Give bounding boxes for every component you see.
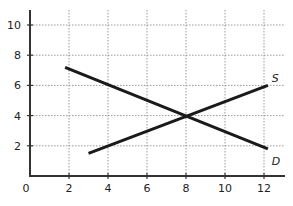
x-tick-label: 0 bbox=[23, 182, 30, 195]
x-tick-label: 8 bbox=[183, 182, 190, 195]
y-tick-label: 2 bbox=[14, 140, 21, 153]
curve-labels: SD bbox=[272, 72, 280, 168]
x-tick-label: 2 bbox=[66, 182, 73, 195]
x-tick-label: 10 bbox=[218, 182, 232, 195]
y-tick-label: 10 bbox=[7, 19, 21, 32]
series-lines bbox=[65, 67, 268, 153]
label-s: S bbox=[272, 72, 279, 85]
y-tick-label: 6 bbox=[14, 79, 21, 92]
y-tick-label: 8 bbox=[14, 49, 21, 62]
x-tick-label: 4 bbox=[105, 182, 112, 195]
line-d bbox=[65, 67, 268, 149]
y-tick-label: 4 bbox=[14, 110, 21, 123]
label-d: D bbox=[272, 155, 280, 168]
x-tick-label: 6 bbox=[144, 182, 151, 195]
line-s bbox=[89, 85, 268, 153]
x-tick-label: 12 bbox=[257, 182, 271, 195]
tick-labels: 024681012246810 bbox=[7, 19, 271, 195]
supply-demand-chart: 024681012246810 SD bbox=[0, 0, 293, 206]
